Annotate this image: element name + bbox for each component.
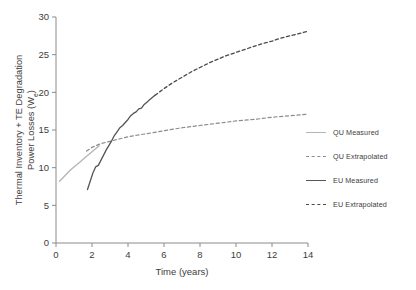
x-tick-label: 6 — [161, 249, 166, 260]
legend-swatch-qu-extrapolated — [306, 156, 326, 157]
x-tick-label: 10 — [231, 249, 242, 260]
y-tick-label: 10 — [38, 162, 49, 173]
svg-text:Power Losses (We): Power Losses (We) — [26, 90, 39, 170]
x-axis-label: Time (years) — [156, 266, 209, 277]
x-tick-label: 12 — [267, 249, 278, 260]
legend-swatch-eu-extrapolated — [306, 204, 326, 205]
series-qu-extrapolated — [87, 114, 308, 151]
legend-label-qu-measured: QU Measured — [333, 128, 379, 137]
legend-swatch-qu-measured — [306, 132, 326, 134]
x-tick-label: 4 — [125, 249, 130, 260]
legend-item-eu-measured: EU Measured — [306, 176, 416, 185]
series-qu-measured — [60, 146, 100, 181]
y-tick-label: 30 — [38, 11, 49, 22]
y-tick-label: 0 — [44, 237, 49, 248]
x-tick-label: 14 — [303, 249, 314, 260]
series-eu-extrapolated — [155, 31, 308, 95]
svg-text:Thermal Inventory + TE Degrada: Thermal Inventory + TE Degradation — [14, 55, 24, 205]
y-tick-label: 15 — [38, 124, 49, 135]
y-axis-label: Thermal Inventory + TE DegradationPower … — [14, 55, 39, 205]
series-eu-measured — [88, 95, 156, 189]
legend-label-eu-extrapolated: EU Extrapolated — [333, 200, 387, 209]
legend-item-qu-measured: QU Measured — [306, 128, 416, 137]
chart-figure: 05101520253002468101214Time (years)Therm… — [0, 0, 416, 290]
y-tick-label: 25 — [38, 49, 49, 60]
x-tick-label: 2 — [89, 249, 94, 260]
x-tick-label: 8 — [197, 249, 202, 260]
legend-label-qu-extrapolated: QU Extrapolated — [333, 152, 388, 161]
legend-swatch-eu-measured — [306, 180, 326, 182]
legend-item-eu-extrapolated: EU Extrapolated — [306, 200, 416, 209]
y-tick-label: 20 — [38, 87, 49, 98]
y-tick-label: 5 — [44, 200, 49, 211]
x-tick-label: 0 — [53, 249, 58, 260]
legend-item-qu-extrapolated: QU Extrapolated — [306, 152, 416, 161]
legend-label-eu-measured: EU Measured — [333, 176, 378, 185]
chart-legend: QU Measured QU Extrapolated EU Measured … — [306, 128, 416, 224]
